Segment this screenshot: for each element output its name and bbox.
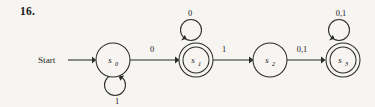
state-subscript-s1: 1 <box>198 60 201 67</box>
state-subscript-s3: 3 <box>344 60 348 67</box>
state-s3[interactable]: s 3 <box>326 43 360 77</box>
state-s2[interactable]: s 2 <box>253 43 287 77</box>
state-label-s0: s <box>108 55 112 65</box>
edge-label-s2-s3: 0,1 <box>297 45 307 54</box>
state-subscript-s2: 2 <box>272 60 275 67</box>
fsm-diagram: Start 0 1 0,1 1 <box>0 0 375 107</box>
state-label-s1: s <box>191 55 195 65</box>
state-label-s2: s <box>265 55 269 65</box>
self-loop-s3: 0,1 <box>329 9 350 41</box>
edge-label-s0-s1: 0 <box>150 45 154 54</box>
self-loop-s1: 0 <box>181 9 202 41</box>
edge-label-s1-s2: 1 <box>222 45 226 54</box>
self-loop-label-s0: 1 <box>115 97 119 106</box>
state-circle-s0[interactable] <box>96 43 130 77</box>
fsm-figure: 16. Start 0 1 0,1 1 <box>0 0 375 107</box>
state-circle-s3[interactable] <box>326 43 360 77</box>
self-loop-label-s3: 0,1 <box>336 9 346 18</box>
state-circle-s2[interactable] <box>253 43 287 77</box>
state-s0[interactable]: s 0 <box>96 43 130 77</box>
transition-s2-s3: 0,1 <box>287 45 326 63</box>
start-arrow-group: Start <box>38 55 96 65</box>
state-label-s3: s <box>338 55 342 65</box>
self-loop-label-s1: 0 <box>188 9 192 18</box>
start-arrowhead <box>92 57 96 64</box>
state-circle-s1[interactable] <box>179 43 213 77</box>
state-s1[interactable]: s 1 <box>179 43 213 77</box>
start-label: Start <box>38 55 56 65</box>
transition-s1-s2: 1 <box>213 45 254 63</box>
transition-s0-s1: 0 <box>130 45 180 63</box>
self-loop-s0: 1 <box>105 75 126 107</box>
edge-arrowhead-s2-s3 <box>321 57 326 64</box>
